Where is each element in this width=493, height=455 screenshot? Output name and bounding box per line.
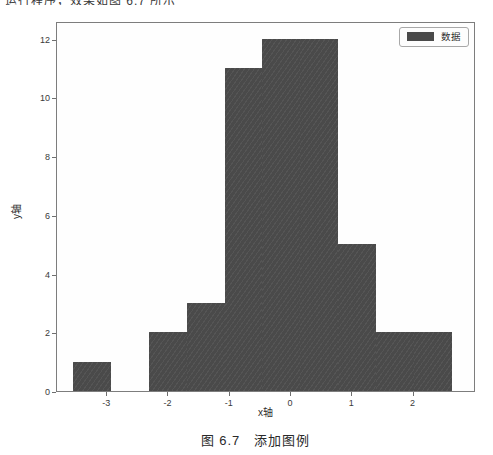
histogram-bar — [338, 244, 376, 391]
histogram-figure: 数据 -3-2-1012024681012 y轴 x轴 — [0, 0, 493, 430]
y-tick-label: 4 — [28, 270, 50, 280]
y-tick-mark — [52, 40, 56, 41]
y-tick-mark — [52, 157, 56, 158]
y-tick-mark — [52, 392, 56, 393]
x-axis-label: x轴 — [56, 404, 475, 419]
histogram-bar — [300, 39, 338, 391]
histogram-bar — [73, 362, 111, 391]
histogram-bar — [414, 332, 452, 391]
legend-swatch-icon — [407, 32, 434, 41]
legend: 数据 — [399, 27, 469, 47]
histogram-bar — [225, 68, 262, 391]
y-tick-mark — [52, 275, 56, 276]
y-tick-mark — [52, 333, 56, 334]
plot-area: 数据 — [56, 22, 475, 392]
y-tick-mark — [52, 216, 56, 217]
histogram-bar — [149, 332, 187, 391]
y-tick-mark — [52, 98, 56, 99]
y-tick-label: 2 — [28, 328, 50, 338]
y-tick-label: 0 — [28, 387, 50, 397]
histogram-bar — [376, 332, 414, 391]
figure-caption: 图 6.7 添加图例 — [0, 430, 493, 449]
x-tick-mark — [413, 392, 414, 396]
y-tick-label: 12 — [28, 35, 50, 45]
x-tick-mark — [351, 392, 352, 396]
legend-label: 数据 — [441, 32, 461, 42]
y-tick-label: 6 — [28, 211, 50, 221]
x-tick-mark — [106, 392, 107, 396]
x-tick-mark — [290, 392, 291, 396]
x-tick-mark — [229, 392, 230, 396]
y-tick-label: 10 — [28, 93, 50, 103]
y-tick-label: 8 — [28, 152, 50, 162]
x-tick-mark — [167, 392, 168, 396]
y-axis-label: y轴 — [8, 204, 23, 219]
histogram-bar — [187, 303, 225, 391]
histogram-bar — [262, 39, 300, 391]
